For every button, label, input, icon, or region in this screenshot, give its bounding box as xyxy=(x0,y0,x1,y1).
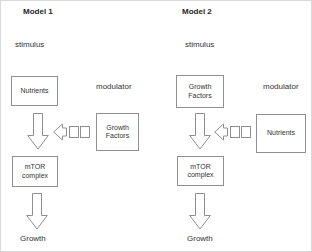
model1-modulator-box: Growth Factors xyxy=(96,113,139,151)
model1-title: Model 1 xyxy=(23,7,53,17)
model1-mtor-box-label: mTOR complex xyxy=(15,163,55,180)
model1-stimulus-label: stimulus xyxy=(15,40,44,50)
model2-modulator-left-arrow-icon xyxy=(214,122,252,142)
model2-title: Model 2 xyxy=(182,7,212,17)
model1-modulator-box-label: Growth Factors xyxy=(99,124,136,141)
model1-stimulus-box: Nutrients xyxy=(11,76,58,106)
model1-stimulus-box-label: Nutrients xyxy=(20,87,48,96)
model2-modulator-box-label: Nutrients xyxy=(267,129,295,138)
model2-down-arrow-icon-1 xyxy=(189,113,211,150)
model2-output-label: Growth xyxy=(187,234,213,244)
model2-modulator-label: modulator xyxy=(263,82,299,92)
model2-stimulus-box: Growth Factors xyxy=(176,75,224,108)
model1-output-label: Growth xyxy=(20,234,46,244)
model1-down-arrow-icon-2 xyxy=(26,193,48,230)
model1-modulator-left-arrow-icon xyxy=(53,122,91,142)
model1-down-arrow-icon-1 xyxy=(27,113,49,150)
model2-mtor-box: mTOR complex xyxy=(177,156,224,186)
model2-down-arrow-icon-2 xyxy=(189,193,211,230)
model1-mtor-box: mTOR complex xyxy=(12,156,58,187)
model2-mtor-box-label: mTOR complex xyxy=(180,163,221,180)
model2-stimulus-box-label: Growth Factors xyxy=(179,83,221,100)
model2-stimulus-label: stimulus xyxy=(185,40,214,50)
model2-modulator-box: Nutrients xyxy=(256,114,306,153)
figure-canvas: Model 1 stimulus Nutrients modulator Gro… xyxy=(0,0,312,252)
model1-modulator-label: modulator xyxy=(96,82,132,92)
